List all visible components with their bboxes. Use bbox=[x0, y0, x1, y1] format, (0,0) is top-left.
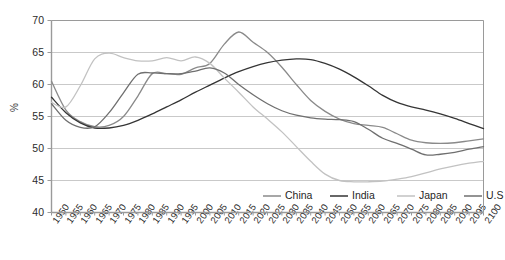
line-chart: % 40455055606570 19501955196019651970197… bbox=[0, 0, 505, 260]
series-line-india bbox=[52, 59, 484, 129]
series-lines bbox=[52, 32, 484, 182]
legend-label-china: China bbox=[285, 189, 312, 201]
plot-area bbox=[0, 0, 505, 260]
grid-lines bbox=[52, 21, 484, 181]
legend-label-japan: Japan bbox=[419, 189, 448, 201]
series-line-japan bbox=[52, 53, 484, 182]
legend-label-india: India bbox=[352, 189, 375, 201]
legend-label-us: U.S bbox=[486, 189, 504, 201]
